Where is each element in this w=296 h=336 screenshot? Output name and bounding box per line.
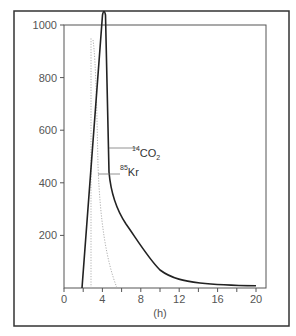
kr-label: Kr <box>128 166 139 178</box>
y-tick-labels: 1000 800 600 400 200 <box>33 19 57 241</box>
annotation-14co2: 14CO2 <box>109 145 160 161</box>
y-tick-200: 200 <box>39 229 57 241</box>
series-85kr <box>91 38 117 288</box>
y-axis <box>60 25 64 235</box>
x-tick-8: 8 <box>138 293 144 305</box>
y-tick-800: 800 <box>39 72 57 84</box>
chart: 1000 800 600 400 200 0 4 8 12 16 20 (h) <box>0 0 296 336</box>
co2-mass-number: 14 <box>132 145 140 152</box>
y-tick-400: 400 <box>39 177 57 189</box>
x-tick-0: 0 <box>61 293 67 305</box>
x-axis-label: (h) <box>153 307 166 319</box>
svg-text:14CO2: 14CO2 <box>132 145 160 161</box>
annotation-85kr: 85Kr <box>98 164 139 178</box>
y-tick-1000: 1000 <box>33 19 57 31</box>
plot-area <box>64 25 266 288</box>
kr-mass-number: 85 <box>120 164 128 171</box>
co2-label: CO <box>140 147 157 159</box>
x-tick-4: 4 <box>99 293 105 305</box>
co2-subscript: 2 <box>156 154 160 161</box>
x-tick-16: 16 <box>211 293 223 305</box>
outer-frame <box>14 11 289 326</box>
x-tick-labels: 0 4 8 12 16 20 <box>61 293 262 305</box>
svg-text:85Kr: 85Kr <box>120 164 139 178</box>
x-axis <box>64 288 256 292</box>
x-tick-20: 20 <box>250 293 262 305</box>
y-tick-600: 600 <box>39 124 57 136</box>
series-14co2 <box>82 12 256 289</box>
x-tick-12: 12 <box>173 293 185 305</box>
